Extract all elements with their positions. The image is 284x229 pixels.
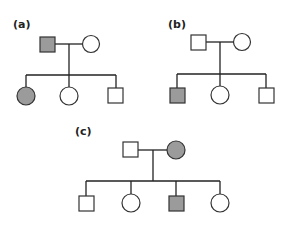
mother-unaffected-female-symbol <box>234 34 251 51</box>
father-unaffected-male-symbol <box>191 35 206 50</box>
child-unaffected-male-symbol <box>108 88 123 103</box>
child-unaffected-female-symbol <box>60 87 78 105</box>
child-affected-male-symbol <box>169 196 184 211</box>
mother-unaffected-female-symbol <box>83 36 100 53</box>
child-unaffected-female-symbol <box>211 86 229 104</box>
pedigree-b: (b) <box>168 18 274 104</box>
child-unaffected-female-symbol <box>211 194 229 212</box>
pedigree-b-label: (b) <box>168 18 186 31</box>
pedigree-a: (a) <box>13 18 123 105</box>
father-unaffected-male-symbol <box>123 142 138 157</box>
pedigree-a-label: (a) <box>13 18 30 31</box>
child-unaffected-female-symbol <box>122 194 140 212</box>
pedigree-c: (c) <box>75 125 229 212</box>
pedigree-figure: (a) (b) (c) <box>0 0 284 229</box>
child-affected-male-symbol <box>170 88 185 103</box>
child-unaffected-male-symbol <box>79 196 94 211</box>
father-affected-male-symbol <box>40 37 55 52</box>
child-unaffected-male-symbol <box>259 88 274 103</box>
mother-affected-female-symbol <box>167 141 185 159</box>
child-affected-female-symbol <box>17 87 35 105</box>
pedigree-c-label: (c) <box>75 125 92 138</box>
